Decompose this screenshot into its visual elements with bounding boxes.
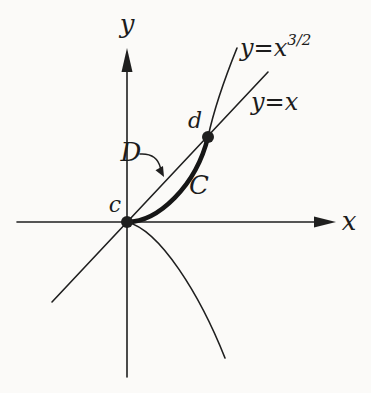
region-d-leader-line: [140, 154, 161, 168]
point-d-dot: [202, 131, 214, 143]
point-c-label: c: [109, 192, 121, 217]
y-axis-label: y: [119, 9, 135, 39]
equation-line: y=x: [250, 88, 299, 116]
x-axis-label: x: [342, 206, 357, 236]
curve-y-equals-x-3-2-upper: [208, 48, 237, 137]
line-y-equals-x: [52, 72, 268, 302]
point-d-label: d: [188, 108, 202, 133]
curve-lower-branch: [127, 222, 225, 358]
region-d-label: D: [120, 137, 142, 167]
x-axis-arrowhead-icon: [314, 217, 336, 228]
figure-canvas: y x c d D C y=x3/2 y=x: [0, 0, 371, 393]
point-c-dot: [121, 216, 133, 228]
equation-power-curve-exponent: 3/2: [287, 31, 311, 49]
equation-power-curve-base: y=x: [239, 34, 288, 62]
equation-power-curve: y=x3/2: [239, 31, 311, 62]
curve-c-label: C: [189, 170, 209, 200]
math-figure: y x c d D C y=x3/2 y=x: [0, 0, 371, 393]
y-axis-arrowhead-icon: [122, 48, 133, 72]
